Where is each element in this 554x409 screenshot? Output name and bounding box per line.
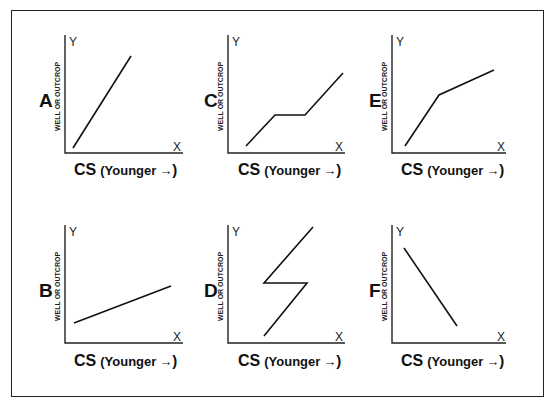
y-axis-title: WELL OR OUTCROP <box>381 62 388 131</box>
y-axis-label: Y <box>396 225 404 239</box>
y-axis-label: Y <box>69 35 77 49</box>
panel-label: E <box>369 90 382 111</box>
panel-label: C <box>204 90 218 111</box>
x-axis-label: X <box>335 140 343 154</box>
data-line <box>264 227 313 336</box>
axes <box>392 225 506 343</box>
y-axis-label: Y <box>69 225 77 239</box>
panel-label: D <box>204 280 218 301</box>
data-line <box>73 56 131 148</box>
data-line <box>404 248 457 326</box>
panel-label: A <box>39 90 53 111</box>
y-axis-title: WELL OR OUTCROP <box>217 252 224 321</box>
panel-d: Y X WELL OR OUTCROP D CS(Younger→) <box>204 225 345 369</box>
y-axis-label: Y <box>396 35 404 49</box>
axes <box>228 35 345 153</box>
y-axis-title: WELL OR OUTCROP <box>54 252 61 321</box>
x-axis-caption: CS(Younger→) <box>238 161 341 178</box>
panel-c: Y X WELL OR OUTCROP C CS(Younger→) <box>204 35 345 178</box>
y-axis-title: WELL OR OUTCROP <box>381 252 388 321</box>
graph-diagram: Y X WELL OR OUTCROP A CS(Younger→) Y X W… <box>0 0 554 409</box>
x-axis-caption: CS(Younger→) <box>401 161 504 178</box>
x-axis-label: X <box>173 330 181 344</box>
axes <box>65 35 183 153</box>
panel-b: Y X WELL OR OUTCROP B CS(Younger→) <box>39 225 183 369</box>
panel-label: F <box>369 280 381 301</box>
panel-e: Y X WELL OR OUTCROP E CS(Younger→) <box>369 35 506 178</box>
data-line <box>246 73 343 146</box>
data-line <box>405 70 494 146</box>
x-axis-label: X <box>497 140 505 154</box>
panel-label: B <box>39 280 53 301</box>
x-axis-caption: CS(Younger→) <box>401 352 504 369</box>
y-axis-title: WELL OR OUTCROP <box>54 62 61 131</box>
data-line <box>74 286 171 323</box>
axes <box>228 225 345 343</box>
x-axis-caption: CS(Younger→) <box>238 352 341 369</box>
x-axis-label: X <box>173 140 181 154</box>
y-axis-label: Y <box>232 35 240 49</box>
y-axis-title: WELL OR OUTCROP <box>217 62 224 131</box>
x-axis-caption: CS(Younger→) <box>74 161 177 178</box>
x-axis-label: X <box>497 330 505 344</box>
panel-f: Y X WELL OR OUTCROP F CS(Younger→) <box>369 225 506 369</box>
x-axis-label: X <box>335 330 343 344</box>
axes <box>65 225 183 343</box>
x-axis-caption: CS(Younger→) <box>74 352 177 369</box>
panel-a: Y X WELL OR OUTCROP A CS(Younger→) <box>39 35 183 178</box>
axes <box>392 35 506 153</box>
y-axis-label: Y <box>232 225 240 239</box>
